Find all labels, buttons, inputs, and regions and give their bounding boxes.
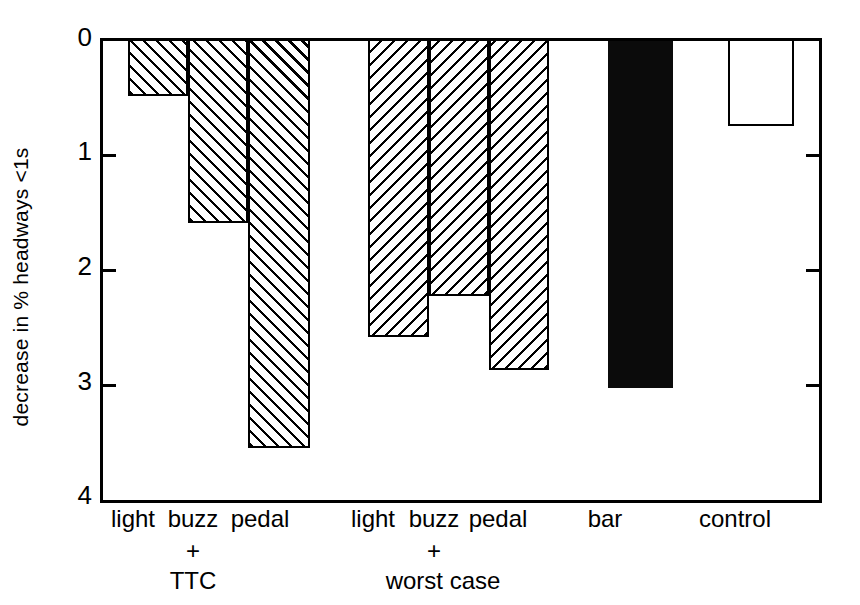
bar-pedal-worst-case xyxy=(489,41,549,370)
group1-plus: + xyxy=(158,538,228,564)
bar-buzz-ttc xyxy=(188,41,248,223)
bar-pedal-ttc xyxy=(248,41,310,448)
bar-control xyxy=(728,41,794,126)
bar-light-ttc xyxy=(128,41,188,96)
bars-layer xyxy=(103,41,819,500)
x-label-bar7: bar xyxy=(570,506,640,531)
group1-name: TTC xyxy=(158,568,228,594)
bar-buzz-worst-case xyxy=(429,41,489,296)
y-tick-label-4: 4 xyxy=(52,482,92,508)
y-tick-label-1: 1 xyxy=(52,138,92,164)
y-tick-label-3: 3 xyxy=(52,368,92,394)
y-axis-title-text: decrease in % headways <1s xyxy=(9,148,33,427)
x-label-bar8: control xyxy=(680,506,790,531)
x-label-bar2: buzz xyxy=(158,506,228,531)
y-tick-label-2: 2 xyxy=(52,253,92,279)
y-axis-title: decrease in % headways <1s xyxy=(0,27,43,547)
chart-figure: decrease in % headways <1s 0 1 2 3 4 lig… xyxy=(0,0,860,605)
group2-name: worst case xyxy=(368,568,518,594)
y-tick-label-0: 0 xyxy=(52,24,92,50)
x-label-bar6: pedal xyxy=(459,506,537,531)
x-label-bar3: pedal xyxy=(221,506,299,531)
x-label-bar4: light xyxy=(338,506,408,531)
group2-plus: + xyxy=(399,538,469,564)
plot-area xyxy=(100,38,822,503)
bar-light-worst-case xyxy=(368,41,429,337)
bar-bar xyxy=(608,41,673,388)
